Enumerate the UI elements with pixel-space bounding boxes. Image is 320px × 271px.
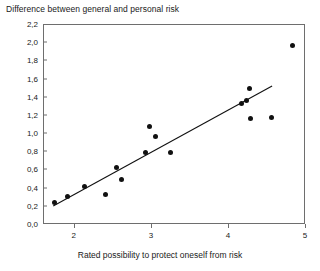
- data-layer: [44, 25, 306, 225]
- data-point: [143, 150, 148, 155]
- x-axis-tick-label: 2: [72, 231, 76, 240]
- y-axis-tick-mark: [43, 60, 47, 61]
- data-point: [244, 98, 249, 103]
- y-axis-tick-label: 1,6: [27, 74, 38, 83]
- y-axis-tick-mark: [43, 187, 47, 188]
- data-point: [269, 115, 274, 120]
- data-point: [82, 184, 87, 189]
- x-axis-tick-mark: [305, 224, 306, 228]
- y-axis-tick-mark: [43, 42, 47, 43]
- y-axis-tick-mark: [43, 205, 47, 206]
- data-point: [103, 192, 108, 197]
- y-axis-tick-mark: [43, 96, 47, 97]
- y-axis-tick-mark: [43, 169, 47, 170]
- x-axis-tick-labels: 2345: [0, 231, 320, 243]
- x-axis-tick-label: 5: [303, 231, 307, 240]
- plot-area: [43, 24, 305, 224]
- y-axis-tick-mark: [43, 151, 47, 152]
- chart-figure: Difference between general and personal …: [0, 0, 320, 271]
- data-point: [119, 177, 124, 182]
- x-axis-tick-mark: [151, 224, 152, 228]
- data-point: [239, 101, 244, 106]
- x-axis-tick-mark: [228, 224, 229, 228]
- y-axis-tick-labels: 0,00,20,40,60,81,01,21,41,61,82,02,2: [0, 24, 38, 224]
- y-axis-tick-label: 1,8: [27, 56, 38, 65]
- y-axis-tick-label: 0,6: [27, 165, 38, 174]
- y-axis-tick-label: 2,2: [27, 20, 38, 29]
- y-axis-tick-label: 0,4: [27, 183, 38, 192]
- y-axis-tick-label: 0,8: [27, 147, 38, 156]
- y-axis-tick-label: 0,2: [27, 201, 38, 210]
- y-axis-tick-mark: [43, 78, 47, 79]
- x-axis-tick-mark: [74, 224, 75, 228]
- y-axis-tick-label: 1,0: [27, 129, 38, 138]
- data-point: [65, 194, 70, 199]
- regression-line: [44, 25, 306, 225]
- data-point: [52, 200, 57, 205]
- y-axis-tick-label: 1,2: [27, 110, 38, 119]
- data-point: [168, 150, 173, 155]
- data-point: [290, 43, 295, 48]
- data-point: [147, 124, 152, 129]
- x-axis-tick-label: 4: [226, 231, 230, 240]
- y-axis-tick-label: 2,0: [27, 38, 38, 47]
- y-axis-tick-label: 1,4: [27, 92, 38, 101]
- data-point: [153, 134, 158, 139]
- data-point: [114, 165, 119, 170]
- chart-title: Difference between general and personal …: [6, 4, 179, 14]
- y-axis-tick-mark: [43, 114, 47, 115]
- y-axis-tick-label: 0,0: [27, 220, 38, 229]
- x-axis-title: Rated possibility to protect oneself fro…: [0, 250, 320, 260]
- data-point: [247, 86, 252, 91]
- y-axis-tick-mark: [43, 133, 47, 134]
- data-point: [248, 116, 253, 121]
- x-axis-tick-label: 3: [149, 231, 153, 240]
